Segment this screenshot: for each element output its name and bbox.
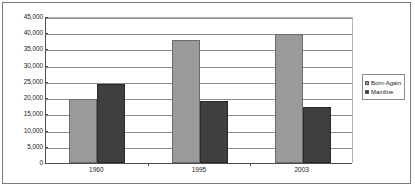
legend-swatch-icon (365, 81, 369, 85)
bar-group (149, 18, 252, 163)
bar[interactable] (275, 34, 303, 163)
legend-item[interactable]: Born-Again (365, 78, 401, 87)
y-tick-label: 25,000 (5, 78, 43, 85)
y-tick-mark (45, 114, 48, 115)
x-tick-label: 1995 (148, 166, 251, 174)
bars-layer (46, 18, 352, 163)
y-tick-mark (45, 17, 48, 18)
bar-group (46, 18, 149, 163)
y-tick-mark (45, 49, 48, 50)
x-axis: 196019952003 (45, 166, 353, 180)
y-tick-label: 45,000 (5, 13, 43, 20)
bar[interactable] (172, 40, 200, 163)
chart-legend: Born-AgainMainline (362, 74, 405, 100)
y-tick-label: 30,000 (5, 62, 43, 69)
bar[interactable] (97, 84, 125, 163)
y-tick-label: 35,000 (5, 45, 43, 52)
bar[interactable] (200, 101, 228, 163)
gridline (46, 163, 352, 164)
x-tick-label: 1960 (45, 166, 148, 174)
bar[interactable] (69, 99, 97, 163)
plot-area (45, 17, 353, 163)
y-tick-mark (45, 147, 48, 148)
y-axis: 45,00040,00035,00030,00025,00020,00015,0… (3, 17, 43, 163)
x-tick-mark (148, 163, 149, 166)
chart-frame: 45,00040,00035,00030,00025,00020,00015,0… (2, 2, 411, 184)
y-tick-mark (45, 98, 48, 99)
legend-item[interactable]: Mainline (365, 87, 401, 96)
bar-group (251, 18, 354, 163)
y-tick-label: 20,000 (5, 94, 43, 101)
y-tick-mark (45, 33, 48, 34)
y-tick-mark (45, 131, 48, 132)
y-tick-label: 0 (5, 159, 43, 166)
y-tick-label: 10,000 (5, 127, 43, 134)
y-tick-mark (45, 66, 48, 67)
y-tick-mark (45, 82, 48, 83)
legend-label: Mainline (371, 88, 393, 96)
y-tick-mark (45, 163, 48, 164)
x-tick-label: 2003 (250, 166, 353, 174)
legend-label: Born-Again (371, 79, 401, 87)
y-tick-label: 15,000 (5, 110, 43, 117)
x-tick-mark (250, 163, 251, 166)
bar[interactable] (303, 107, 331, 163)
y-tick-label: 40,000 (5, 29, 43, 36)
legend-swatch-icon (365, 90, 369, 94)
y-tick-label: 5,000 (5, 143, 43, 150)
